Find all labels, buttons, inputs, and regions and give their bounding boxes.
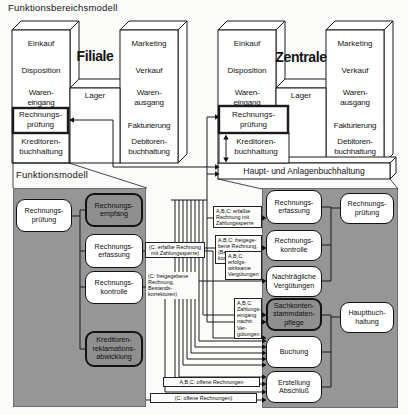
panel-right-buchung-box: Buchung <box>266 336 322 368</box>
filiale-lager-label: Lager <box>72 91 118 101</box>
panel-right-rechnungskontrolle-box: Rechnungs- kontrolle <box>266 230 322 261</box>
annotation-c-freigegebene-rechnung: (C: freigegebene Rechnung, Bestands- kor… <box>146 272 196 299</box>
zentrale-kreditorenbuchhaltung-label: Kreditoren- buchhaltung <box>226 137 286 157</box>
filiale-wareneingang-label: Waren- eingang <box>14 88 68 108</box>
zentrale-fakturierung-label: Fakturierung <box>326 121 384 131</box>
panel-left-rechnungsempfang-box: Rechnungs- empfang <box>85 193 143 227</box>
zentrale-wareneingang-label: Waren- eingang <box>220 88 274 108</box>
filiale-kreditorenbuchhaltung-label: Kreditoren- buchhaltung <box>13 137 69 157</box>
panel-left-kreditorenreklamation-box: Kreditoren- reklamations- abwicklung <box>85 331 143 367</box>
panel-right-hauptbuchhaltung-box: Hauptbuch- haltung <box>340 302 394 333</box>
zentrale-lager-label: Lager <box>278 91 324 101</box>
zentrale-name-label: Zentrale <box>274 49 328 66</box>
title-funktionsmodell: Funktionsmodell <box>16 169 88 181</box>
title-funktionsbereichsmodell: Funktionsbereichsmodell <box>8 2 118 14</box>
filiale-name-label: Filiale <box>68 48 122 65</box>
zentrale-verkauf-label: Verkauf <box>328 66 382 76</box>
filiale-marketing-label: Marketing <box>122 39 176 49</box>
annotation-c-erfasste-rechnung: (C: erfaßte Rechnung mit Zahlungssperre) <box>145 242 205 258</box>
zentrale-warenausgang-label: Waren- ausgang <box>328 88 382 108</box>
panel-right-sachkontenstammdaten-box: Sachkonten- stammdaten- pflege <box>266 298 322 331</box>
panel-left-rechnungspruefung-box: Rechnungs- prüfung <box>16 199 72 232</box>
filiale-einkauf-label: Einkauf <box>14 39 68 49</box>
zentrale-einkauf-label: Einkauf <box>220 39 274 49</box>
annotation-abc-erfolgswirksame-verguetungen: A,B,C: erfolgs- wirksame Vergütungen <box>225 251 262 280</box>
zentrale-disposition-label: Disposition <box>220 66 274 76</box>
haupt-anlagenbuchhaltung-bar-label: Haupt- und Anlagenbuchhaltung <box>218 166 390 176</box>
zentrale-rechnungspruefung-label: Rechnungs- prüfung <box>219 110 288 130</box>
filiale-debitorenbuchhaltung-label: Debitoren- buchhaltung <box>120 137 178 157</box>
panel-left-rechnungserfassung-box: Rechnungs- erfassung <box>85 234 143 268</box>
diagram-canvas: Funktionsbereichsmodell Funktionsmodell … <box>0 0 408 415</box>
panel-right-rechnungspruefung-box: Rechnungs- prüfung <box>340 193 394 224</box>
filiale-disposition-label: Disposition <box>14 66 68 76</box>
annotation-abc-erfasste-rechnung: A,B,C: erfaßte Rechnung mit Zahlungssper… <box>213 206 262 228</box>
filiale-rechnungspruefung-label: Rechnungs- prüfung <box>13 110 68 130</box>
panel-right-nachtraegliche-verguetungen-box: Nachträgliche Vergütungen <box>266 266 322 297</box>
filiale-warenausgang-label: Waren- ausgang <box>122 88 176 108</box>
annotation-c-offene-rechnungen: (C: offene Rechnungen) <box>150 393 257 403</box>
zentrale-marketing-label: Marketing <box>328 39 382 49</box>
filiale-verkauf-label: Verkauf <box>122 66 176 76</box>
panel-right-erstellung-abschluss-box: Erstellung Abschluß <box>266 371 322 403</box>
filiale-fakturierung-label: Fakturierung <box>120 121 178 131</box>
panel-left-rechnungskontrolle-box: Rechnungs- kontrolle <box>85 271 143 304</box>
panel-right-rechnungserfassung-box: Rechnungs- erfassung <box>266 190 322 224</box>
annotation-abc-zahlungseingang: A,B,C: Zahlungs- eingang nachtr. Ver- gü… <box>234 298 262 339</box>
zentrale-debitorenbuchhaltung-label: Debitoren- buchhaltung <box>326 137 384 157</box>
annotation-abc-offene-rechnungen: A,B,C: offene Rechnungen <box>163 377 260 387</box>
